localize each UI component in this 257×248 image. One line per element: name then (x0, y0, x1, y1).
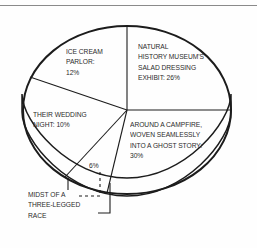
slice-label-natural-history-museum: NATURAL HISTORY MUSEUM'S SALAD DRESSING … (138, 42, 204, 83)
slice-label-ice-cream-parlor: ICE CREAM PARLOR: 12% (66, 47, 103, 78)
slice-label-around-a-campfire: AROUND A CAMPFIRE, WOVEN SEAMLESSLY INTO… (130, 120, 202, 161)
pie-divider-upper-left (30, 77, 127, 110)
slice-label-midst-of-a-three-legged-race: MIDST OF A THREE-LEGGED RACE (28, 190, 80, 221)
slice-value-six-percent: 6% (89, 161, 99, 171)
slice-label-their-wedding-night: THEIR WEDDING NIGHT: 10% (33, 110, 87, 131)
pie-divider-lower-left-a (107, 110, 127, 193)
figure-canvas: NATURAL HISTORY MUSEUM'S SALAD DRESSING … (0, 0, 257, 248)
